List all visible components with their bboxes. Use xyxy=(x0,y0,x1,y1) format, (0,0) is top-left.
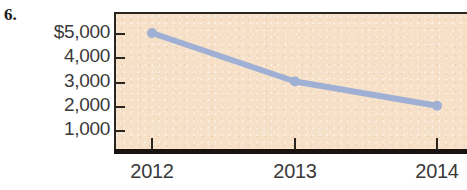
y-axis-tick xyxy=(115,33,125,35)
y-tick-label: 3,000 xyxy=(26,71,110,95)
y-tick-label: $5,000 xyxy=(26,22,110,46)
y-axis-tick xyxy=(115,82,125,84)
x-tick-label: 2013 xyxy=(250,160,340,183)
x-axis-tick xyxy=(151,138,153,150)
line-chart-figure: 6. $5,000 4,000 3,000 2,000 1,000 2012 2… xyxy=(0,0,467,190)
problem-number: 6. xyxy=(4,5,17,25)
x-tick-label: 2014 xyxy=(392,160,467,183)
y-axis-tick-labels: $5,000 4,000 3,000 2,000 1,000 xyxy=(26,22,110,143)
y-tick-label: 2,000 xyxy=(26,95,110,119)
y-axis-tick xyxy=(115,106,125,108)
x-axis-tick xyxy=(294,138,296,150)
y-axis-tick xyxy=(115,130,125,132)
plot-area xyxy=(114,12,467,154)
y-tick-label: 1,000 xyxy=(26,119,110,143)
y-tick-label: 4,000 xyxy=(26,46,110,70)
y-axis-tick xyxy=(115,57,125,59)
x-axis-tick xyxy=(436,138,438,150)
x-tick-label: 2012 xyxy=(107,160,197,183)
x-axis-baseline xyxy=(114,149,467,154)
paper-grain-texture xyxy=(116,14,467,154)
